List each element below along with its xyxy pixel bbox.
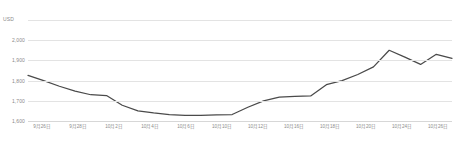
y-axis-tick-label: 2,000 bbox=[12, 38, 25, 43]
x-axis-tick-label: 10月16日 bbox=[284, 124, 304, 130]
y-axis-tick-label: 1,600 bbox=[12, 119, 25, 124]
x-axis-tick-label: 10月24日 bbox=[392, 124, 412, 130]
plot-area bbox=[28, 20, 452, 121]
x-axis-tick-label: 10月4日 bbox=[141, 124, 159, 130]
x-axis-tick-label: 10月18日 bbox=[320, 124, 340, 130]
x-axis-tick-label: 9月26日 bbox=[33, 124, 51, 130]
line-chart: USD 2,0001,9001,8001,7001,600 9月26日9月28日… bbox=[0, 0, 459, 141]
y-axis-tick-label: 1,900 bbox=[12, 58, 25, 63]
gridline bbox=[28, 40, 452, 41]
x-axis-line bbox=[28, 121, 452, 122]
x-axis-tick-label: 10月2日 bbox=[105, 124, 123, 130]
y-axis-tick-labels: 2,0001,9001,8001,7001,600 bbox=[0, 20, 25, 121]
y-axis-tick-label: 1,800 bbox=[12, 78, 25, 83]
x-axis-tick-label: 10月6日 bbox=[177, 124, 195, 130]
x-axis-tick-label: 10月10日 bbox=[212, 124, 232, 130]
y-axis-tick-label: 1,700 bbox=[12, 98, 25, 103]
x-axis-tick-label: 9月28日 bbox=[69, 124, 87, 130]
gridline bbox=[28, 20, 452, 21]
x-axis-tick-label: 10月20日 bbox=[356, 124, 376, 130]
gridline bbox=[28, 81, 452, 82]
x-axis-tick-label: 10月12日 bbox=[248, 124, 268, 130]
gridline bbox=[28, 101, 452, 102]
x-axis-tick-labels: 9月26日9月28日10月2日10月4日10月6日10月10日10月12日10月… bbox=[28, 124, 452, 134]
series-line-usd bbox=[28, 20, 452, 121]
gridline bbox=[28, 60, 452, 61]
x-axis-tick-label: 10月26日 bbox=[428, 124, 448, 130]
